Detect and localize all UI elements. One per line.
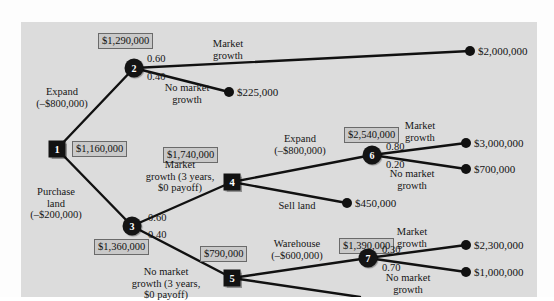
branch-market-growth-6: Marketgrowth (405, 120, 435, 143)
branch-market-growth-2: Marketgrowth (213, 38, 243, 61)
branch-no-market-growth-2-line-2: growth (165, 94, 210, 106)
payoff-1000000-dot (461, 267, 471, 277)
prob-6-no-market-growth: 0.20 (386, 159, 404, 170)
payoff-2000000-dot (465, 46, 475, 56)
prob-7-market-growth: 0.30 (382, 244, 400, 255)
edge-5-down (232, 278, 360, 297)
payoff-2000000: $2,000,000 (478, 45, 528, 57)
prob-3-market-growth: 0.60 (148, 212, 166, 223)
branch-purchase-land-line-3: (–$200,000) (30, 209, 82, 221)
branch-no-market-growth-7: No marketgrowth (386, 272, 431, 295)
branch-market-growth-3-line-3: $0 payoff) (146, 182, 215, 194)
edge-2-to-2000000 (134, 51, 470, 68)
branch-warehouse-line-1: Warehouse (271, 238, 323, 250)
branch-purchase-land-line-1: Purchase (30, 186, 82, 198)
payoff-2300000: $2,300,000 (474, 239, 524, 251)
branch-no-market-growth-3-line-3: $0 payoff) (132, 289, 201, 301)
branch-market-growth-6-line-2: growth (405, 132, 435, 144)
branch-warehouse: Warehouse(–$600,000) (271, 238, 323, 261)
branch-no-market-growth-7-line-2: growth (386, 284, 431, 296)
branch-no-market-growth-7-line-1: No market (386, 272, 431, 284)
chance-node-6[interactable]: 6 (363, 146, 382, 165)
branch-market-growth-2-line-2: growth (213, 50, 243, 62)
payoff-450000: $450,000 (355, 197, 396, 209)
branch-expand-from-4-line-1: Expand (274, 133, 326, 145)
branch-sell-land-line-1: Sell land (278, 200, 315, 212)
edge-5-to-7 (232, 258, 368, 278)
prob-2-market-growth: 0.60 (147, 53, 165, 64)
branch-no-market-growth-2-line-1: No market (165, 82, 210, 94)
ev-node-1: $1,160,000 (72, 141, 127, 157)
payoff-3000000: $3,000,000 (474, 137, 524, 149)
branch-expand-from-1-line-1: Expand (36, 86, 88, 98)
payoff-1000000: $1,000,000 (474, 266, 524, 278)
branch-market-growth-3: Marketgrowth (3 years,$0 payoff) (146, 159, 215, 194)
branch-no-market-growth-2: No marketgrowth (165, 82, 210, 105)
decision-node-5[interactable]: 5 (224, 270, 241, 287)
payoff-700000: $700,000 (474, 163, 515, 175)
chance-node-7[interactable]: 7 (359, 249, 378, 268)
branch-sell-land: Sell land (278, 200, 315, 212)
decision-node-1[interactable]: 1 (49, 141, 66, 158)
edge-4-to-6 (232, 155, 372, 182)
branch-purchase-land: Purchaseland(–$200,000) (30, 186, 82, 221)
branch-market-growth-7-line-1: Market (397, 226, 427, 238)
branch-market-growth-6-line-1: Market (405, 120, 435, 132)
branch-warehouse-line-2: (–$600,000) (271, 250, 323, 262)
payoff-700000-dot (461, 164, 471, 174)
branch-market-growth-3-line-1: Market (146, 159, 215, 171)
ev-node-2: $1,290,000 (98, 33, 153, 49)
decision-node-4[interactable]: 4 (224, 174, 241, 191)
branch-no-market-growth-3: No marketgrowth (3 years,$0 payoff) (132, 266, 201, 301)
branch-no-market-growth-6-line-2: growth (390, 180, 435, 192)
payoff-225000: $225,000 (237, 86, 278, 98)
ev-node-3: $1,360,000 (94, 239, 149, 255)
branch-no-market-growth-3-line-1: No market (132, 266, 201, 278)
branch-expand-from-4: Expand(–$800,000) (274, 133, 326, 156)
payoff-225000-dot (224, 87, 234, 97)
payoff-2300000-dot (461, 240, 471, 250)
chance-node-2[interactable]: 2 (125, 59, 144, 78)
branch-market-growth-7: Marketgrowth (397, 226, 427, 249)
prob-7-no-market-growth: 0.70 (382, 262, 400, 273)
prob-3-no-market-growth: 0.40 (148, 229, 166, 240)
branch-no-market-growth-6: No marketgrowth (390, 168, 435, 191)
branch-no-market-growth-3-line-2: growth (3 years, (132, 278, 201, 290)
branch-expand-from-1-line-2: (–$800,000) (36, 98, 88, 110)
branch-market-growth-7-line-2: growth (397, 238, 427, 250)
payoff-450000-dot (342, 198, 352, 208)
branch-market-growth-3-line-2: growth (3 years, (146, 171, 215, 183)
chance-node-3[interactable]: 3 (123, 217, 142, 236)
prob-2-no-market-growth: 0.40 (147, 71, 165, 82)
prob-6-market-growth: 0.80 (386, 141, 404, 152)
ev-node-5: $790,000 (200, 246, 247, 262)
branch-expand-from-1: Expand(–$800,000) (36, 86, 88, 109)
payoff-3000000-dot (461, 138, 471, 148)
branch-market-growth-2-line-1: Market (213, 38, 243, 50)
branch-expand-from-4-line-2: (–$800,000) (274, 145, 326, 157)
branch-purchase-land-line-2: land (30, 198, 82, 210)
